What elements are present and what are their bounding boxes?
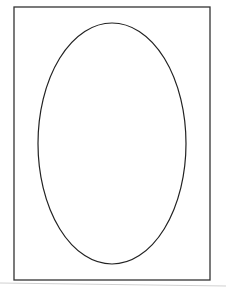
frame-rectangle bbox=[14, 7, 210, 280]
shadow-line bbox=[0, 283, 226, 286]
diagram-canvas bbox=[0, 0, 226, 290]
oval-shape bbox=[38, 23, 186, 264]
